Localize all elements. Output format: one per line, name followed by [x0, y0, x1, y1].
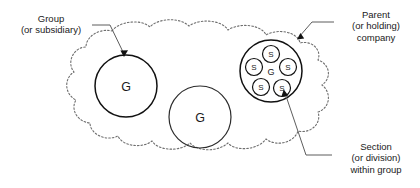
section-circle-left-label: S — [251, 63, 256, 72]
group-callout: Group (or subsidiary) — [10, 13, 92, 36]
group-callout-line-1: Group — [10, 13, 92, 24]
group-circle-middle-label: G — [195, 111, 205, 125]
parent-callout-line-2: (or holding) — [336, 20, 416, 31]
section-circle-top-label: S — [268, 50, 273, 59]
section-circle-bottom-left-label: S — [258, 83, 263, 92]
parent-callout-line-1: Parent — [336, 9, 416, 20]
parent-callout-arrowhead — [297, 33, 304, 40]
section-callout-line-1: Section — [334, 141, 418, 152]
parent-callout: Parent (or holding) company — [336, 9, 416, 43]
section-callout-line-2: (or division) — [334, 152, 418, 163]
section-circle-right-label: S — [285, 63, 290, 72]
group-circle-with-sections-center-label: G — [267, 67, 274, 77]
section-callout-line-3: within group — [334, 164, 418, 175]
parent-company-cloud-outline — [67, 20, 329, 150]
group-circle-left-label: G — [121, 80, 131, 94]
parent-callout-line-3: company — [336, 32, 416, 43]
group-callout-line-2: (or subsidiary) — [10, 24, 92, 35]
section-callout: Section (or division) within group — [334, 141, 418, 175]
parent-callout-leader-line — [299, 22, 334, 37]
diagram-canvas: G G G S S S S S Group (or subsidiary) Pa… — [0, 0, 420, 188]
